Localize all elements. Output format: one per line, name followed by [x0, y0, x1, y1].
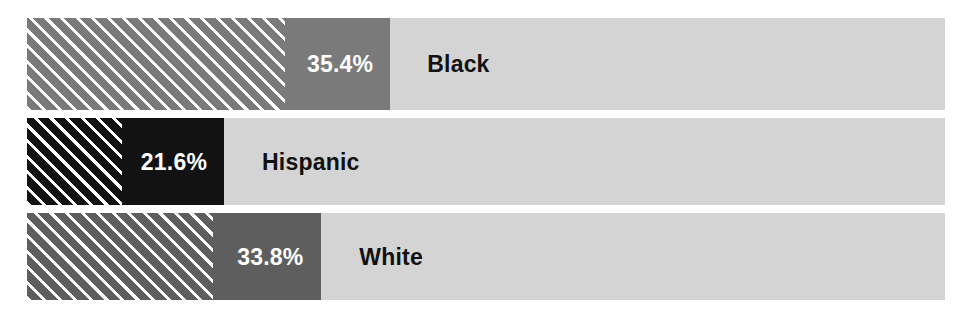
bar-value-label: 33.8%	[237, 243, 303, 270]
bar-category-label: Hispanic	[262, 148, 359, 175]
bar-value-label: 21.6%	[141, 148, 207, 175]
bar-hatch-black	[27, 18, 285, 110]
bar-value-label: 35.4%	[307, 51, 373, 78]
bar-hatch-hispanic	[27, 118, 122, 205]
bar-category-label: White	[359, 243, 423, 270]
bar-chart: 35.4% Black 21.6% Hispanic 33.8% White	[0, 0, 957, 325]
bar-row[interactable]: 33.8% White	[27, 213, 945, 300]
bar-category-label: Black	[427, 51, 489, 78]
bar-row[interactable]: 21.6% Hispanic	[27, 118, 945, 205]
chart-plot-area: 35.4% Black 21.6% Hispanic 33.8% White	[27, 18, 945, 300]
bar-row[interactable]: 35.4% Black	[27, 18, 945, 110]
bar-hatch-white	[27, 213, 213, 300]
